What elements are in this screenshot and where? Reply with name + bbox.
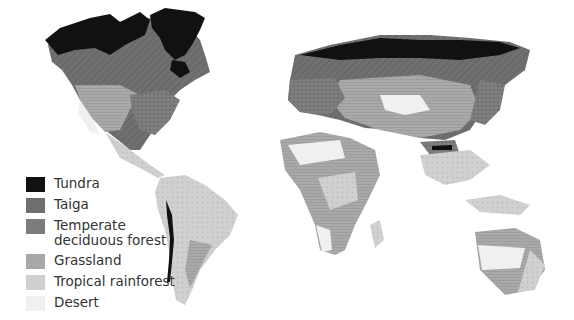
legend-label: Tundra (54, 176, 100, 191)
tundra-swatch (26, 177, 45, 192)
legend-item-grassland: Grassland (26, 253, 194, 269)
grassland-swatch (26, 254, 45, 269)
legend-label: Tropical rainforest (54, 274, 175, 289)
africa (280, 132, 380, 255)
legend-label: Temperate deciduous forest (54, 218, 194, 248)
legend-item-taiga: Taiga (26, 197, 194, 213)
rainforest-swatch (26, 275, 45, 290)
legend-label: Grassland (54, 253, 122, 268)
legend-item-rainforest: Tropical rainforest (26, 274, 194, 290)
legend-item-desert: Desert (26, 295, 194, 311)
australia (370, 195, 545, 295)
legend-label: Taiga (54, 197, 89, 212)
legend: Tundra Taiga Temperate deciduous forest … (26, 176, 194, 316)
legend-item-tundra: Tundra (26, 176, 194, 192)
taiga-swatch (26, 198, 45, 213)
legend-item-temperate: Temperate deciduous forest (26, 218, 194, 248)
temperate-swatch (26, 219, 45, 234)
north-america (45, 8, 210, 178)
desert-swatch (26, 296, 45, 311)
legend-label: Desert (54, 295, 99, 310)
